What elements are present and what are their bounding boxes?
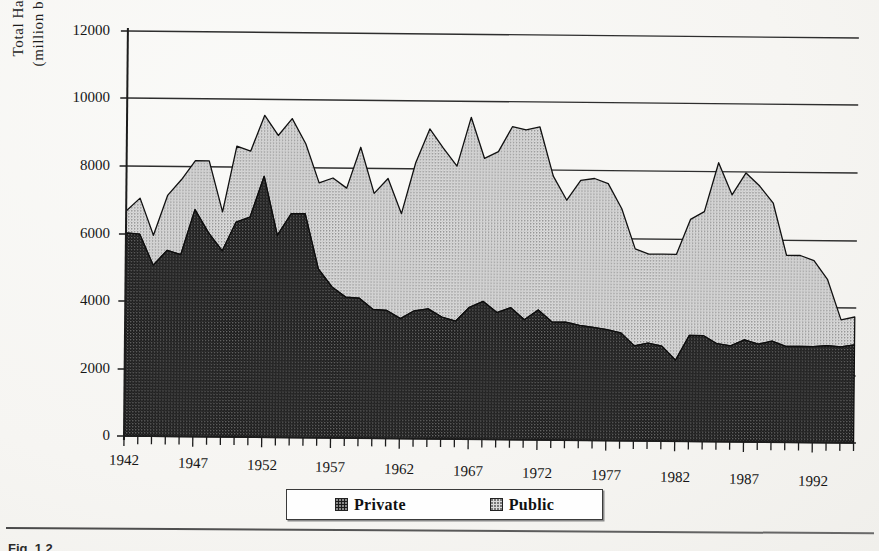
legend-swatch-private-icon	[335, 498, 348, 511]
x-tick-label-1967: 1967	[438, 463, 498, 481]
legend-entry-private: Private	[335, 496, 406, 514]
x-tick-label-1972: 1972	[507, 465, 567, 483]
figure-root: Total Harvest (million bf Scribner) 0 20…	[0, 0, 879, 551]
x-tick-label-1957: 1957	[300, 459, 360, 477]
x-tick-label-1992: 1992	[783, 473, 843, 491]
legend-label-public: Public	[509, 496, 554, 514]
y-tick-label-4000: 4000	[32, 292, 110, 309]
chart-stage: Total Harvest (million bf Scribner) 0 20…	[0, 0, 879, 551]
x-tick-label-1947: 1947	[163, 455, 223, 473]
y-tick-label-12000: 12000	[32, 22, 110, 39]
y-tick-label-6000: 6000	[32, 225, 110, 242]
y-tick-label-2000: 2000	[32, 360, 110, 377]
gridline-10000	[127, 98, 858, 105]
gridline-12000	[128, 31, 859, 38]
legend-entry-public: Public	[490, 496, 554, 514]
x-tick-label-1962: 1962	[369, 461, 429, 479]
x-tick-label-1982: 1982	[645, 469, 705, 487]
x-tick-label-1977: 1977	[576, 467, 636, 485]
y-tick-label-0: 0	[32, 427, 110, 444]
x-tick-label-1942: 1942	[94, 452, 154, 470]
chart-legend: Private Public	[286, 489, 603, 520]
legend-label-private: Private	[354, 496, 406, 514]
x-tick-label-1987: 1987	[714, 471, 774, 489]
figure-caption: Fig. 1.2	[8, 541, 53, 551]
x-tick-label-1952: 1952	[232, 457, 292, 475]
y-tick-label-8000: 8000	[32, 157, 110, 174]
y-tick-label-10000: 10000	[32, 89, 110, 106]
legend-swatch-public-icon	[490, 498, 503, 511]
